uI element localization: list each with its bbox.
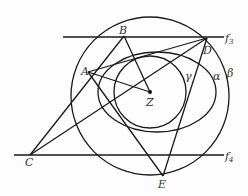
label-Z: Z [145,96,154,109]
label-A: A [80,65,89,78]
segment-AD [88,38,207,72]
label-gamma: γ [185,70,192,83]
segment-CB [30,36,124,155]
segment-AE [88,72,163,176]
center-point-Z [148,90,152,94]
geometry-diagram: A B C D E Z γ α β f3 f4 [0,0,248,196]
label-alpha: α [213,70,221,83]
label-f4: f4 [224,150,234,164]
label-D: D [202,44,212,57]
label-E: E [157,178,166,191]
label-beta: β [226,67,233,80]
segment-CD [30,38,207,155]
label-C: C [25,156,34,169]
diagram-svg: A B C D E Z γ α β f3 f4 [0,0,248,196]
label-f3: f3 [224,32,234,46]
label-B: B [118,24,127,37]
